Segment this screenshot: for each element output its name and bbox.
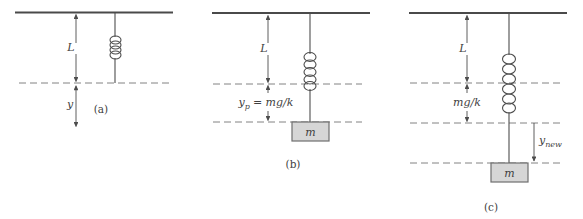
mass-block-b: m [292, 122, 329, 141]
label-m-c: m [504, 167, 514, 180]
dimension-mgk-c: mg/k [453, 85, 481, 122]
spring-c [503, 13, 516, 163]
caption-a: (a) [94, 103, 108, 115]
dimension-L-b: L [259, 16, 268, 83]
label-L-c: L [458, 42, 466, 55]
caption-b: (b) [286, 158, 301, 170]
dimension-yp-b: yp= mg/k [238, 86, 294, 121]
dimension-y-a: y [66, 86, 76, 127]
caption-c: (c) [484, 201, 498, 213]
figure-canvas: L y (a) L [0, 0, 583, 219]
label-m-b: m [305, 126, 315, 139]
dimension-L-a: L [66, 15, 76, 82]
panel-b: L yp= mg/k m (b) [212, 13, 370, 170]
label-ynew-c: ynew [538, 134, 562, 149]
label-L-b: L [259, 42, 267, 55]
dimension-ynew-c: ynew [534, 123, 562, 161]
label-y-a: y [66, 98, 74, 111]
ynew-sub: new [545, 140, 562, 149]
mass-block-c: m [491, 163, 528, 182]
panel-a: L y (a) [15, 13, 173, 127]
spring-a [110, 13, 121, 84]
yp-eq: = mg/k [253, 96, 294, 109]
dimension-L-c: L [458, 16, 467, 82]
yp-sub: p [245, 102, 250, 111]
label-yp-b: yp= mg/k [238, 96, 294, 111]
label-L-a: L [66, 41, 74, 54]
panel-c: L mg/k ynew m (c) [409, 13, 567, 213]
spring-mass-figure: L y (a) L [0, 0, 583, 219]
spring-b [304, 13, 316, 122]
label-mgk-c: mg/k [453, 96, 481, 109]
